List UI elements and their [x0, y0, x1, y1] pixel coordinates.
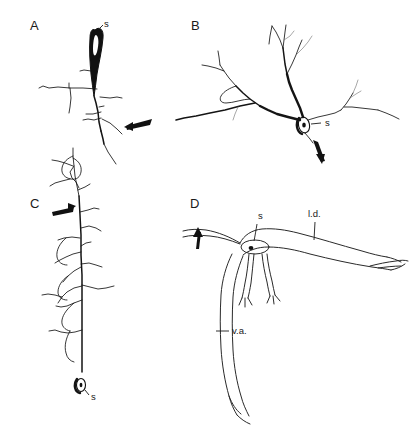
panel-c-top-right-twig — [78, 184, 90, 190]
panel-c-left-branch-6 — [49, 330, 82, 333]
panel-d-left-process-lower — [183, 235, 240, 244]
panel-b-letter: B — [191, 18, 200, 33]
panel-c-left-branch-4 — [58, 286, 82, 303]
panel-d-branch-2-tip — [267, 295, 280, 304]
panel-b-upper-branch-2 — [283, 25, 286, 48]
panel-c-soma-leader — [85, 390, 89, 395]
panel-c-left-branch-3 — [63, 267, 81, 282]
panel-d-soma-label: s — [258, 210, 263, 221]
panel-b-soma-leader — [311, 123, 321, 124]
panel-b-left-branch-upper — [220, 65, 236, 86]
panel-d-nucleus — [249, 246, 254, 250]
panel-b-upper-branch-4-faint — [296, 36, 312, 55]
panel-a-branch-lower-right — [102, 119, 122, 134]
panel-a-axon-tail — [104, 144, 116, 164]
panel-a-branch-left-long — [39, 86, 97, 89]
panel-b-upper-twig — [284, 31, 294, 40]
panel-c-soma-label: s — [91, 391, 96, 402]
figure-canvas: s A — [0, 0, 420, 430]
panel-c-right-branch-2 — [81, 226, 101, 231]
panel-c-letter: C — [30, 196, 39, 211]
panel-c-right-branch-3 — [81, 263, 102, 267]
panel-a-tick-1 — [99, 106, 104, 107]
panel-d-branch-1-left — [242, 254, 249, 298]
panel-b-drawing: s B — [176, 18, 399, 164]
panel-d-letter: D — [190, 196, 199, 211]
panel-c-left-arc-2 — [62, 303, 74, 331]
panel-d-arrow — [193, 227, 203, 249]
panel-d-ld-label: l.d. — [308, 208, 321, 219]
panel-d-branch-1-right — [248, 254, 254, 298]
panel-c-right-branch-1 — [80, 208, 99, 212]
panel-d-va-label: v.a. — [232, 325, 247, 336]
panel-a-branch-right-upper — [100, 97, 122, 98]
panel-c-top-branch-left2 — [50, 179, 70, 186]
panel-b-left-horizontal — [176, 103, 255, 120]
panel-c-left-arc-3 — [65, 331, 74, 362]
panel-c-arrow — [52, 203, 76, 216]
panel-b-ascending-upper — [283, 48, 287, 74]
panel-a-shaft-lower — [101, 131, 104, 144]
panel-d-soma-leader — [254, 224, 257, 241]
panel-c-left-arc-4 — [57, 238, 67, 265]
panel-c-left-branch-1 — [58, 237, 80, 240]
panel-b-upper-branch-5 — [269, 26, 272, 44]
panel-a-branch-left-descend — [69, 88, 71, 113]
panel-d-branch-1-tip — [239, 298, 252, 307]
panel-b-primary-ascending — [287, 74, 303, 117]
panel-b-left-primary-2 — [236, 86, 260, 106]
panel-c-right-branch-5 — [81, 242, 91, 246]
panel-b-soma-nucleus — [302, 122, 306, 127]
panel-b-right-branch-4 — [378, 110, 399, 119]
panel-a-drawing: s A — [30, 18, 152, 164]
panel-b-soma-label: s — [325, 117, 330, 128]
panel-b-upper-branch-3 — [287, 40, 302, 74]
panel-b-axon-stub — [305, 133, 313, 143]
panel-c-drawing: s C — [30, 148, 114, 402]
panel-d-ventral-axon-right — [232, 256, 249, 416]
panel-b-right-branch-3 — [344, 107, 378, 110]
panel-b-left-branch-upper3 — [218, 51, 220, 65]
panel-c-right-branch-4 — [82, 285, 114, 289]
panel-d-ld-tip-2 — [391, 264, 405, 270]
panel-d-drawing: s l.d. v.a. D — [183, 196, 408, 424]
panel-d-soma-outline-bottom — [243, 247, 391, 270]
panel-b-right-twig-2 — [353, 80, 358, 93]
panel-a-soma-leader — [100, 25, 103, 28]
panel-a-letter: A — [30, 18, 39, 33]
panel-c-left-branch-5 — [56, 300, 82, 307]
panel-a-soma-label: s — [104, 18, 109, 29]
neuron-figure: s A — [0, 0, 420, 430]
panel-c-main-shaft — [79, 196, 82, 372]
panel-c-soma-nucleus — [80, 383, 83, 387]
panel-b-left-horizontal-twig — [233, 107, 238, 120]
panel-d-ventral-axon-tip — [237, 415, 250, 424]
panel-a-branch-stub-upper — [80, 70, 91, 71]
panel-b-left-primary — [260, 106, 300, 120]
panel-b-arrow — [313, 140, 325, 164]
panel-d-branch-2-left — [262, 254, 270, 296]
panel-d-ld-tip-3 — [370, 260, 408, 266]
panel-c-top-dendrite-1 — [73, 148, 79, 196]
panel-b-right-branch-2 — [341, 93, 353, 110]
panel-b-upper-branch-1 — [272, 26, 283, 48]
panel-a-arrow — [124, 119, 152, 131]
